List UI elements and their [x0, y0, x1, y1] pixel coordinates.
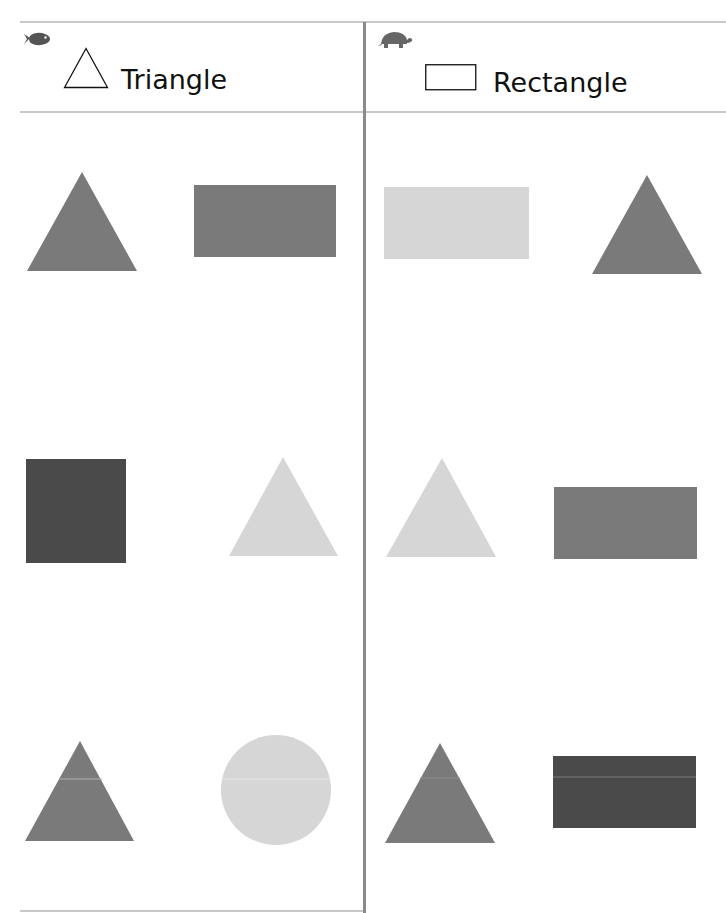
shape-triangle-light[interactable]	[386, 458, 496, 557]
shape-circle-light[interactable]	[221, 735, 331, 845]
shape-square-dark[interactable]	[26, 459, 126, 563]
shape-triangle-medium[interactable]	[25, 741, 134, 841]
rectangle-outline-icon	[425, 64, 477, 91]
shape-triangle-medium[interactable]	[592, 175, 702, 274]
fish-icon	[24, 32, 50, 46]
column-divider	[363, 22, 366, 913]
triangle-outline-icon	[63, 47, 109, 89]
shape-rectangle-dark[interactable]	[553, 756, 696, 828]
turtle-icon	[378, 30, 414, 50]
shape-rectangle-medium[interactable]	[194, 185, 336, 257]
shape-triangle-medium[interactable]	[27, 172, 137, 271]
shape-rectangle-light[interactable]	[384, 187, 529, 259]
bottom-rule	[20, 910, 363, 912]
column-label-rectangle: Rectangle	[493, 69, 628, 96]
column-header-rectangle: Rectangle	[366, 22, 726, 112]
shape-triangle-light[interactable]	[229, 457, 338, 556]
column-header-triangle: Triangle	[0, 22, 363, 112]
shape-triangle-medium[interactable]	[385, 743, 495, 843]
shape-rectangle-medium[interactable]	[554, 487, 697, 559]
column-label-triangle: Triangle	[121, 66, 227, 93]
